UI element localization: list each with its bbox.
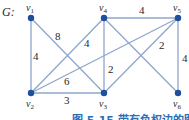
weight-v4-v5: 4 bbox=[139, 4, 145, 16]
vertex-label-v6: v6 bbox=[173, 98, 181, 111]
vertex-label-v4: v4 bbox=[99, 2, 107, 15]
vertex-label-v1: v1 bbox=[26, 2, 34, 15]
weight-v2-v5: 6 bbox=[64, 75, 70, 87]
node-v3 bbox=[101, 90, 107, 96]
figure-caption: 图 5.15 带有负权边的图 bbox=[72, 113, 189, 120]
weight-v2-v3: 3 bbox=[64, 94, 70, 106]
graph-name-label: G: bbox=[2, 5, 15, 19]
weight-v2-v4: 4 bbox=[84, 37, 90, 49]
node-v4 bbox=[101, 15, 107, 21]
vertex-label-v5: v5 bbox=[173, 2, 181, 15]
weight-v1-v3: 8 bbox=[55, 30, 61, 42]
vertex-label-v2: v2 bbox=[26, 98, 34, 111]
node-v6 bbox=[175, 90, 181, 96]
weight-v5-v6: 4 bbox=[182, 52, 188, 64]
node-v5 bbox=[175, 15, 181, 21]
node-v2 bbox=[28, 90, 34, 96]
graph-diagram: G: v1 v2 v3 v4 v5 v6 4 8 3 4 6 2 4 2 4 图… bbox=[0, 0, 189, 120]
weight-v5-v3: 2 bbox=[159, 39, 165, 51]
weight-v4-v3: 2 bbox=[108, 63, 114, 75]
vertex-label-v3: v3 bbox=[99, 98, 107, 111]
weight-v1-v2: 4 bbox=[33, 50, 39, 62]
node-v1 bbox=[28, 15, 34, 21]
